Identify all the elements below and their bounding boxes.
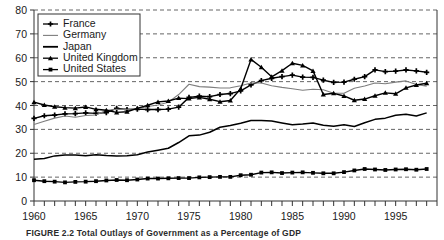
legend-item-label: Japan (63, 40, 92, 52)
series-japan (34, 113, 427, 159)
marker-square (218, 175, 222, 179)
marker-plus (31, 116, 36, 121)
marker-plus (279, 74, 284, 79)
marker-plus (166, 106, 171, 111)
marker-square (363, 167, 367, 171)
marker-triangle (238, 86, 243, 91)
marker-square (259, 171, 263, 175)
marker-square (301, 170, 305, 174)
x-tick-label: 1985 (281, 210, 305, 222)
marker-plus (300, 74, 305, 79)
marker-square (197, 175, 201, 179)
marker-square (342, 170, 346, 174)
marker-plus (145, 107, 150, 112)
marker-plus (217, 92, 222, 97)
line-chart: 01020304050607080 1960196519701975198019… (0, 0, 444, 240)
marker-square (177, 176, 181, 180)
marker-plus (352, 77, 357, 82)
marker-square (249, 173, 253, 177)
marker-square (311, 171, 315, 175)
x-tick-label: 1965 (74, 210, 98, 222)
marker-plus (42, 113, 47, 118)
marker-square (156, 177, 160, 181)
marker-plus (73, 111, 78, 116)
marker-square (63, 180, 67, 184)
legend-item-label: United Kingdom (63, 51, 138, 63)
marker-plus (424, 70, 429, 75)
marker-plus (331, 80, 336, 85)
marker-plus (228, 91, 233, 96)
marker-plus (259, 78, 264, 83)
marker-square (73, 180, 77, 184)
x-tick-label: 1975 (177, 210, 201, 222)
marker-plus (403, 67, 408, 72)
marker-plus (414, 68, 419, 73)
series-germany (34, 81, 427, 125)
marker-square (280, 171, 284, 175)
x-tick-label: 1970 (126, 210, 150, 222)
x-axis-ticks: 19601965197019751980198519901995 (22, 201, 437, 222)
x-tick-label: 1980 (229, 210, 253, 222)
x-tick-label: 1990 (332, 210, 356, 222)
y-tick-label: 80 (15, 4, 27, 16)
marker-plus (393, 69, 398, 74)
series-line (34, 113, 427, 159)
y-tick-label: 10 (15, 171, 27, 183)
marker-square (239, 173, 243, 177)
y-tick-label: 0 (21, 195, 27, 207)
marker-triangle (31, 100, 36, 105)
marker-square (290, 171, 294, 175)
legend-item-label: United States (63, 62, 126, 74)
marker-square (146, 177, 150, 181)
marker-square (135, 178, 139, 182)
marker-square (228, 175, 232, 179)
x-tick-label: 1995 (384, 210, 408, 222)
marker-square (115, 178, 119, 182)
marker-square (414, 168, 418, 172)
marker-square (53, 180, 57, 184)
y-tick-label: 60 (15, 52, 27, 64)
marker-square (94, 179, 98, 183)
marker-square (404, 167, 408, 171)
marker-plus (341, 80, 346, 85)
marker-square (270, 170, 274, 174)
series-line (34, 81, 427, 125)
marker-square (49, 68, 53, 72)
marker-square (425, 167, 429, 171)
marker-plus (52, 112, 57, 117)
marker-square (208, 175, 212, 179)
y-tick-label: 30 (15, 123, 27, 135)
marker-plus (155, 107, 160, 112)
y-tick-label: 70 (15, 28, 27, 40)
y-tick-label: 20 (15, 147, 27, 159)
figure-container: 01020304050607080 1960196519701975198019… (0, 0, 444, 240)
chart-legend: FranceGermanyJapanUnited KingdomUnited S… (38, 14, 140, 76)
marker-square (125, 178, 129, 182)
marker-square (187, 176, 191, 180)
legend-item-label: Germany (63, 28, 107, 40)
marker-plus (83, 110, 88, 115)
legend-item-label: France (63, 17, 96, 29)
y-tick-label: 50 (15, 76, 27, 88)
marker-plus (290, 73, 295, 78)
marker-square (166, 176, 170, 180)
marker-square (373, 168, 377, 172)
marker-square (383, 168, 387, 172)
marker-square (321, 171, 325, 175)
marker-square (332, 171, 336, 175)
marker-square (394, 168, 398, 172)
series-united-states (32, 167, 428, 184)
marker-square (104, 179, 108, 183)
marker-square (352, 169, 356, 173)
x-tick-label: 1960 (22, 210, 46, 222)
figure-caption: FIGURE 2.2 Total Outlays of Government a… (26, 228, 301, 238)
marker-plus (383, 69, 388, 74)
y-tick-label: 40 (15, 100, 27, 112)
marker-square (32, 178, 36, 182)
y-axis-ticks: 01020304050607080 (15, 4, 34, 207)
marker-square (42, 179, 46, 183)
marker-square (84, 180, 88, 184)
